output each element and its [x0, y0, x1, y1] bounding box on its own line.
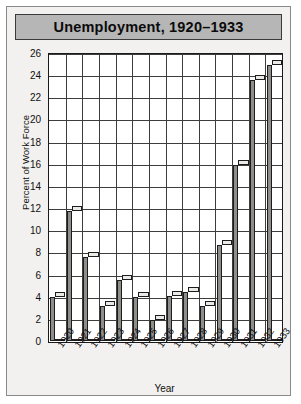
grid-line-vertical: [132, 54, 133, 342]
plot-area: [48, 53, 283, 343]
grid-line-vertical: [166, 54, 167, 342]
grid-line-vertical: [232, 54, 233, 342]
grid-line-vertical: [99, 54, 100, 342]
grid-line-vertical: [199, 54, 200, 342]
grid-line-vertical: [116, 54, 117, 342]
y-axis-tick-label: 10: [30, 225, 41, 236]
grid-line-vertical: [182, 54, 183, 342]
chart-title-bar: Unemployment, 1920–1933: [15, 14, 282, 40]
y-axis-tick-label: 16: [30, 158, 41, 169]
grid-line-vertical: [82, 54, 83, 342]
chart-figure: Unemployment, 1920–1933 0246810121416182…: [6, 6, 291, 396]
y-axis-tick-label: 8: [35, 247, 41, 258]
page-title: Unemployment, 1920–1933: [54, 19, 244, 35]
y-axis-tick-label: 14: [30, 180, 41, 191]
grid-line-vertical: [249, 54, 250, 342]
grid-line-vertical: [215, 54, 216, 342]
y-axis-tick-label: 12: [30, 203, 41, 214]
y-axis-tick-label: 2: [35, 313, 41, 324]
x-axis-tick-labels: 1920192119221923192419251926192719281929…: [48, 343, 281, 387]
y-axis-tick-label: 26: [30, 48, 41, 59]
grid-line-vertical: [149, 54, 150, 342]
x-axis-title: Year: [48, 383, 281, 394]
y-axis-tick-label: 24: [30, 70, 41, 81]
y-axis-tick-label: 6: [35, 269, 41, 280]
y-axis-tick-label: 20: [30, 114, 41, 125]
y-axis-tick-label: 4: [35, 291, 41, 302]
grid-line-vertical: [265, 54, 266, 342]
y-axis-tick-label: 18: [30, 136, 41, 147]
y-axis-tick-label: 0: [35, 336, 41, 347]
grid-line-vertical: [66, 54, 67, 342]
y-axis-title: Percent of Work Force: [20, 98, 31, 228]
y-axis-tick-label: 22: [30, 92, 41, 103]
